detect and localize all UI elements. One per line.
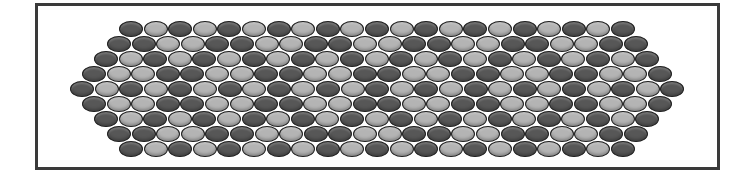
bead: [143, 51, 167, 67]
bead: [525, 36, 549, 52]
bead: [476, 126, 500, 142]
bead: [143, 111, 167, 127]
bead: [537, 21, 561, 37]
bead: [549, 66, 573, 82]
bead: [377, 66, 401, 82]
bead: [635, 51, 659, 67]
bead: [426, 66, 450, 82]
bead: [205, 126, 229, 142]
bead: [414, 21, 438, 37]
bead: [501, 126, 525, 142]
bead: [94, 51, 118, 67]
bead: [267, 81, 291, 97]
bead: [476, 36, 500, 52]
bead: [291, 141, 315, 157]
bead: [513, 21, 537, 37]
bead: [304, 126, 328, 142]
bead: [500, 96, 524, 112]
bead: [328, 126, 352, 142]
bead: [192, 51, 216, 67]
bead: [279, 36, 303, 52]
bead: [365, 81, 389, 97]
bead: [513, 141, 537, 157]
bead: [131, 66, 155, 82]
bead: [624, 126, 648, 142]
bead: [303, 66, 327, 82]
bead: [218, 81, 242, 97]
bead: [119, 51, 143, 67]
bead: [427, 36, 451, 52]
bead: [550, 36, 574, 52]
bead: [549, 96, 573, 112]
bead: [599, 126, 623, 142]
bead: [279, 126, 303, 142]
bead: [266, 51, 290, 67]
bead: [328, 36, 352, 52]
bead: [389, 51, 413, 67]
bead: [193, 21, 217, 37]
bead: [230, 126, 254, 142]
bead: [439, 141, 463, 157]
bead: [611, 21, 635, 37]
bead: [451, 36, 475, 52]
bead: [107, 36, 131, 52]
bead: [168, 141, 192, 157]
bead: [525, 126, 549, 142]
bead: [402, 126, 426, 142]
bead: [340, 141, 364, 157]
bead: [512, 111, 536, 127]
bead: [414, 141, 438, 157]
bead: [586, 111, 610, 127]
bead: [365, 141, 389, 157]
bead: [488, 141, 512, 157]
bead: [316, 141, 340, 157]
bead: [255, 36, 279, 52]
bead: [624, 36, 648, 52]
bead: [217, 141, 241, 157]
bead: [537, 111, 561, 127]
bead: [365, 51, 389, 67]
bead: [525, 66, 549, 82]
bead: [464, 81, 488, 97]
bead: [119, 111, 143, 127]
bead: [353, 66, 377, 82]
bead: [500, 66, 524, 82]
bead: [463, 51, 487, 67]
bead: [451, 126, 475, 142]
bead: [562, 21, 586, 37]
bead: [132, 36, 156, 52]
bead: [586, 21, 610, 37]
bead: [599, 66, 623, 82]
bead: [353, 36, 377, 52]
bead: [217, 111, 241, 127]
bead: [574, 126, 598, 142]
bead: [390, 81, 414, 97]
bead: [242, 141, 266, 157]
bead: [291, 111, 315, 127]
bead: [181, 126, 205, 142]
bead: [267, 21, 291, 37]
bead: [599, 96, 623, 112]
bead: [291, 21, 315, 37]
bead: [230, 66, 254, 82]
bead: [193, 141, 217, 157]
bead: [291, 81, 315, 97]
bead: [144, 21, 168, 37]
bead: [438, 111, 462, 127]
bead: [365, 21, 389, 37]
bead: [537, 51, 561, 67]
bead: [586, 51, 610, 67]
bead: [316, 81, 340, 97]
bead: [254, 96, 278, 112]
bead: [438, 51, 462, 67]
bead: [119, 141, 143, 157]
bead: [242, 51, 266, 67]
bead: [156, 96, 180, 112]
bead: [501, 36, 525, 52]
bead: [132, 126, 156, 142]
bead: [119, 81, 143, 97]
bead: [107, 96, 131, 112]
bead: [230, 96, 254, 112]
bead: [94, 111, 118, 127]
bead: [365, 111, 389, 127]
